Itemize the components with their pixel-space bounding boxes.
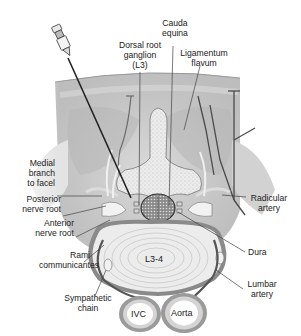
label-line: Anterior xyxy=(22,218,74,228)
label-line: Ligamentum xyxy=(176,48,232,58)
label-line: artery xyxy=(240,289,284,299)
label-rami-communicantes: Rami communicantes xyxy=(36,250,102,270)
label-dorsal-root-ganglion: Dorsal root ganglion (L3) xyxy=(112,40,168,70)
label-medial-branch: Medial branch to facel xyxy=(10,158,55,188)
dural-sac xyxy=(141,194,175,222)
label-line: branch xyxy=(10,168,55,178)
label-ligamentum-flavum: Ligamentum flavum xyxy=(176,48,232,68)
label-line: (L3) xyxy=(112,60,168,70)
aorta-label: Aorta xyxy=(171,308,193,318)
label-line: Posterior xyxy=(10,194,61,204)
label-line: artery xyxy=(244,203,294,213)
label-line: nerve root xyxy=(22,228,74,238)
label-line: Lumbar xyxy=(240,279,284,289)
label-line: Rami xyxy=(36,250,102,260)
label-line: Dura xyxy=(248,247,278,257)
label-line: Sympathetic xyxy=(60,293,116,303)
label-dura: Dura xyxy=(248,247,278,257)
label-anterior-nerve-root: Anterior nerve root xyxy=(22,218,74,238)
label-line: equina xyxy=(155,28,195,38)
label-line: Cauda xyxy=(155,18,195,28)
label-line: nerve root xyxy=(10,204,61,214)
label-radicular-artery: Radicular artery xyxy=(244,193,294,213)
label-lumbar-artery: Lumbar artery xyxy=(240,279,284,299)
label-line: chain xyxy=(60,303,116,313)
disc-level-label: L3-4 xyxy=(145,254,163,264)
label-line: Dorsal root xyxy=(112,40,168,50)
label-cauda-equina: Cauda equina xyxy=(155,18,195,38)
label-line: ganglion xyxy=(112,50,168,60)
label-line: communicantes xyxy=(36,260,102,270)
label-posterior-nerve-root: Posterior nerve root xyxy=(10,194,61,214)
ivc-label: IVC xyxy=(131,309,146,319)
label-line: to facel xyxy=(10,178,55,188)
label-line: flavum xyxy=(176,58,232,68)
label-sympathetic-chain: Sympathetic chain xyxy=(60,293,116,313)
label-line: Medial xyxy=(10,158,55,168)
label-line: Radicular xyxy=(244,193,294,203)
